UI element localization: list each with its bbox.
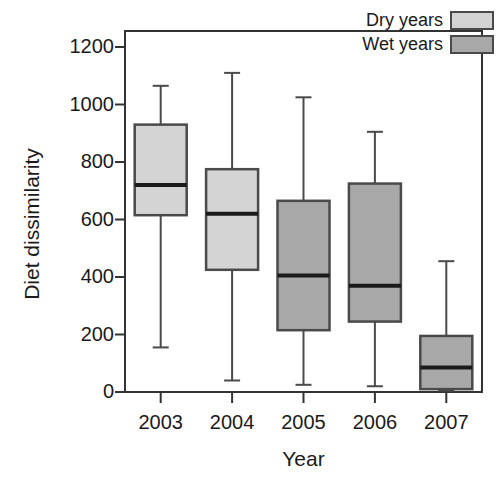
y-tick-label-0: 0: [52, 381, 114, 401]
box-2007: [420, 336, 472, 389]
legend-swatch: [450, 11, 494, 30]
x-tick-label-2006: 2006: [343, 412, 407, 432]
legend-swatch: [450, 35, 494, 54]
y-axis-title: Diet dissimilarity: [20, 104, 44, 344]
legend-label: Wet years: [362, 34, 443, 55]
legend-label: Dry years: [366, 10, 443, 31]
x-tick-label-2005: 2005: [272, 412, 336, 432]
legend-item-dry-years: Dry years: [362, 10, 494, 31]
y-tick-label-800: 800: [52, 151, 114, 171]
box-2003: [135, 125, 187, 216]
box-plot-2003: [135, 86, 187, 348]
chart-legend: Dry yearsWet years: [360, 8, 496, 60]
box-plot-2005: [278, 97, 330, 385]
y-tick-label-1000: 1000: [52, 94, 114, 114]
y-axis-tick-labels: 020040060080010001200: [42, 0, 114, 485]
box-plot-2007: [420, 261, 472, 390]
x-axis-title: Year: [125, 447, 482, 471]
x-tick-label-2004: 2004: [200, 412, 264, 432]
y-tick-label-200: 200: [52, 324, 114, 344]
box-2004: [206, 169, 258, 270]
legend-item-wet-years: Wet years: [362, 34, 494, 55]
y-tick-label-1200: 1200: [52, 36, 114, 56]
box-plot-figure: 020040060080010001200 Diet dissimilarity…: [0, 0, 504, 485]
box-2006: [349, 184, 401, 322]
box-plot-2006: [349, 132, 401, 386]
y-tick-label-600: 600: [52, 209, 114, 229]
x-tick-label-2007: 2007: [414, 412, 478, 432]
x-tick-label-2003: 2003: [129, 412, 193, 432]
y-tick-label-400: 400: [52, 266, 114, 286]
box-plot-2004: [206, 73, 258, 381]
box-2005: [278, 201, 330, 330]
